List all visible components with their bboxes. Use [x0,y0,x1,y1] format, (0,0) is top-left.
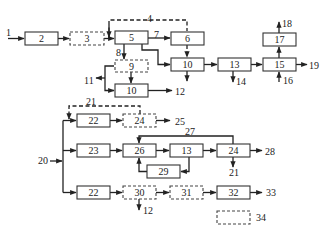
stream-label: 25 [175,116,185,127]
stream-label: 33 [266,187,276,198]
stream-label: 19 [309,60,319,71]
process-box-6: 6 [171,32,204,45]
stream-label: 21 [229,167,239,178]
process-box-24: 24 [217,144,250,157]
box-label: 22 [89,187,99,198]
process-box-22: 22 [77,114,110,127]
stream-label: 12 [175,86,185,97]
boxes: 2356910101315172224232613242922303132 [25,31,296,224]
box-label: 29 [159,166,169,177]
process-box-13: 13 [218,58,251,71]
stream-label: 18 [282,18,292,29]
process-box-10: 10 [115,84,148,97]
process-box-32: 32 [217,186,250,199]
box-label: 15 [275,59,285,70]
process-box-5: 5 [115,31,148,44]
box-label: 23 [89,145,99,156]
box-label: 13 [182,145,192,156]
stream-label: 34 [256,212,266,223]
stream-label: 12 [143,205,153,216]
process-box-23: 23 [77,144,110,157]
box-label: 9 [129,61,134,72]
process-flow-diagram: 2356910101315172224232613242922303132 14… [0,0,326,235]
stream-label: 28 [265,146,275,157]
box-label: 30 [135,187,145,198]
box-label: 5 [129,32,134,43]
process-box-29: 29 [147,165,180,178]
process-box-17: 17 [263,33,296,46]
process-box-22: 22 [77,186,110,199]
process-box-2: 2 [25,32,58,45]
box-label: 17 [275,34,285,45]
stream-label: 11 [84,75,94,86]
box-label: 13 [230,59,240,70]
box-label: 10 [183,59,193,70]
process-box-31: 31 [170,186,203,199]
process-box-26: 26 [123,144,156,157]
stream-label: 8 [116,47,121,58]
stream-label: 4 [147,13,152,24]
box-label: 31 [182,187,192,198]
dashed-box [217,211,250,224]
stream-label: 14 [236,76,246,87]
box-label: 22 [89,115,99,126]
process-box-13: 13 [170,144,203,157]
process-box-24: 24 [123,114,156,127]
box-label: 10 [127,85,137,96]
process-box-30: 30 [123,186,156,199]
process-box-15: 15 [263,58,296,71]
box-label: 6 [185,33,190,44]
process-box-10: 10 [171,58,204,71]
process-box-legend [217,211,250,224]
stream-label: 16 [283,75,293,86]
box-label: 2 [39,33,44,44]
stream-label: 20 [38,155,48,166]
process-box-3: 3 [70,32,104,45]
connectors [8,20,307,210]
stream-label: 7 [154,29,159,40]
stream-label: 1 [6,27,11,38]
stream-label: 27 [185,126,195,137]
stream-label: 21 [86,96,96,107]
box-label: 24 [229,145,239,156]
box-label: 3 [85,33,90,44]
box-label: 24 [135,115,145,126]
box-label: 32 [229,187,239,198]
box-label: 26 [135,145,145,156]
process-box-9: 9 [115,60,148,72]
